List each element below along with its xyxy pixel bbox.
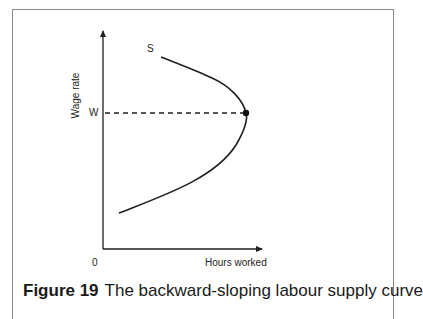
x-axis-label: Hours worked xyxy=(205,257,267,268)
figure-number: Figure 19 xyxy=(23,281,99,300)
y-tick-w: W xyxy=(89,107,98,118)
curve-label-s: S xyxy=(147,43,154,54)
origin-label: 0 xyxy=(92,257,98,268)
turning-point-dot xyxy=(243,110,249,116)
figure-title: The backward-sloping labour supply curve xyxy=(105,281,423,300)
y-axis-label: Wage rate xyxy=(70,68,81,124)
figure-caption: Figure 19The backward-sloping labour sup… xyxy=(23,281,423,301)
supply-curve xyxy=(119,57,247,213)
